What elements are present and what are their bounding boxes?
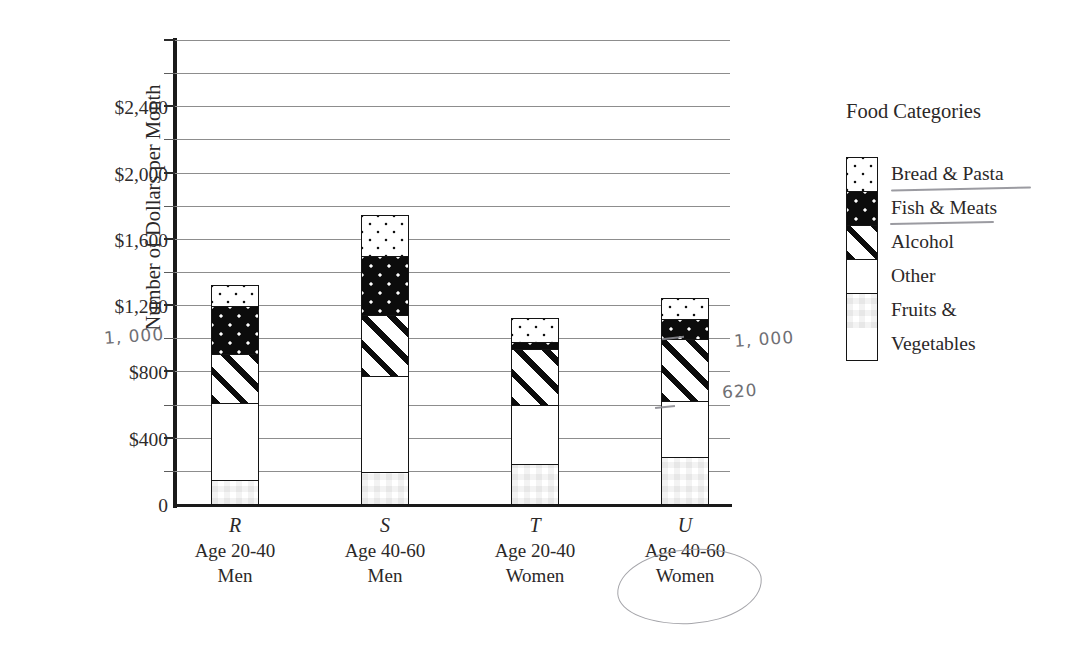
y-axis-tick — [164, 238, 175, 240]
bar-segment-alcohol — [662, 340, 708, 402]
bar-segment-bread-pasta — [512, 319, 558, 344]
gridline — [175, 239, 730, 240]
handwritten-bar-u-alcohol-top: 1, 000 — [733, 327, 794, 351]
y-axis-tick — [164, 405, 175, 406]
y-axis-tick — [164, 73, 175, 74]
x-axis-letter: R — [160, 512, 310, 538]
bar-segment-other — [362, 377, 408, 472]
legend-label-other: Other — [891, 259, 1004, 293]
y-axis-tick-labels: 0$400$800$1,200$1,600$2,000$2,400 — [0, 41, 168, 505]
legend-label-alcohol: Alcohol — [891, 225, 1004, 259]
y-axis-tick — [164, 39, 175, 41]
bar-u — [661, 298, 709, 505]
y-axis-tick — [164, 272, 175, 273]
x-axis-letter: U — [610, 512, 760, 538]
y-axis-tick — [164, 338, 175, 339]
bar-segment-fruits-vegetables — [512, 465, 558, 504]
legend-swatch-other — [847, 260, 877, 294]
bar-segment-bread-pasta — [362, 216, 408, 257]
bar-segment-alcohol — [362, 316, 408, 377]
bar-segment-fruits-vegetables — [662, 458, 708, 504]
y-axis-tick — [164, 172, 175, 174]
x-axis-sublabel: Age 20-40 — [160, 538, 310, 563]
x-axis-label-s: SAge 40-60Men — [310, 512, 460, 589]
y-axis-tick-label: $800 — [129, 362, 168, 384]
gridline — [175, 206, 730, 207]
x-axis-sublabel: Men — [310, 563, 460, 588]
bar-segment-bread-pasta — [662, 299, 708, 320]
y-axis-tick-label: $400 — [129, 429, 168, 451]
y-axis-tick-label: $2,400 — [114, 97, 168, 119]
legend-swatch-fruits-vegetables — [847, 294, 877, 328]
legend-label-fruits: Fruits & — [891, 293, 1004, 327]
bar-s — [361, 215, 409, 505]
x-axis-letter: T — [460, 512, 610, 538]
legend-label-vegetables: Vegetables — [891, 327, 1004, 361]
x-axis-sublabel: Age 20-40 — [460, 538, 610, 563]
y-axis-tick — [164, 370, 175, 372]
legend-swatches — [846, 157, 878, 361]
plot-area — [175, 41, 730, 505]
gridline — [175, 272, 730, 273]
legend-swatch-fish-meats — [847, 192, 877, 226]
y-axis-tick — [164, 437, 175, 439]
bar-segment-alcohol — [512, 350, 558, 406]
legend-label-bread-pasta: Bread & Pasta — [891, 157, 1004, 191]
gridline — [175, 73, 730, 74]
bar-segment-fish-meats — [212, 307, 258, 355]
gridline — [175, 139, 730, 140]
x-axis-label-t: TAge 20-40Women — [460, 512, 610, 589]
legend-title: Food Categories — [846, 100, 1086, 123]
y-axis-tick — [164, 206, 175, 207]
gridline — [175, 40, 730, 41]
y-axis-tick-label: $2,000 — [114, 164, 168, 186]
handwritten-axis-value-1000: 1, 000 — [103, 324, 164, 348]
bar-segment-alcohol — [212, 355, 258, 404]
y-axis-tick — [164, 105, 175, 107]
y-axis-tick-label: $1,200 — [114, 296, 168, 318]
x-axis-sublabel: Men — [160, 563, 310, 588]
legend-swatch-alcohol — [847, 226, 877, 260]
legend-swatch-bread-pasta — [847, 158, 877, 192]
bar-segment-other — [512, 406, 558, 465]
bar-t — [511, 318, 559, 505]
x-axis-label-r: RAge 20-40Men — [160, 512, 310, 589]
bar-segment-fish-meats — [362, 257, 408, 316]
bar-segment-other — [662, 402, 708, 458]
y-axis-tick-label: $1,600 — [114, 230, 168, 252]
gridline — [175, 106, 730, 107]
bar-segment-other — [212, 404, 258, 481]
y-axis-tick — [164, 139, 175, 140]
y-axis-tick — [164, 304, 175, 306]
x-axis-letter: S — [310, 512, 460, 538]
y-axis-tick — [164, 471, 175, 472]
bar-segment-bread-pasta — [212, 286, 258, 307]
handwritten-bar-u-alcohol-bottom: 620 — [721, 380, 758, 402]
x-axis-sublabel: Women — [460, 563, 610, 588]
x-axis-sublabel: Age 40-60 — [310, 538, 460, 563]
bar-r — [211, 285, 259, 505]
legend: Food Categories Bread & Pasta Fish & Mea… — [846, 100, 1086, 361]
legend-label-fish-meats: Fish & Meats — [891, 191, 1004, 225]
bar-segment-fruits-vegetables — [212, 481, 258, 504]
bar-segment-fruits-vegetables — [362, 473, 408, 504]
gridline — [175, 173, 730, 174]
